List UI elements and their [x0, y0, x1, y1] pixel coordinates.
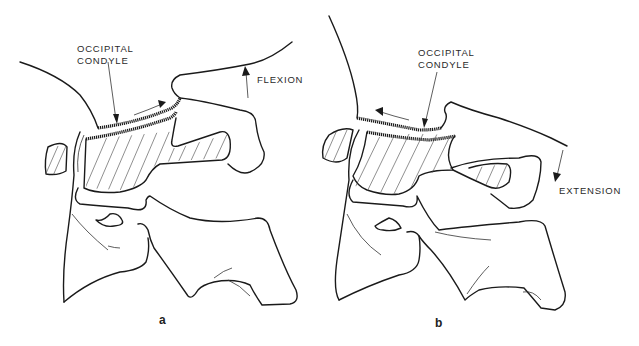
panel-letter-b: b: [435, 316, 442, 330]
condyle-motion-arrow: [134, 104, 162, 115]
skull-base-outline: [172, 42, 292, 98]
flexion-label: FLEXION: [257, 74, 303, 86]
atlas-lateral-mass: [84, 118, 230, 193]
flexion-illustration: [0, 0, 320, 346]
extension-illustration: [319, 0, 639, 346]
extension-label: EXTENSION: [559, 185, 621, 197]
foramen-outline: [96, 214, 123, 227]
atlas-hatching: [80, 128, 230, 200]
flexion-arrow: [246, 72, 248, 98]
label-line-2: CONDYLE: [77, 55, 134, 67]
label-line-1: OCCIPITAL: [418, 47, 475, 59]
panel-letter-a: a: [159, 313, 166, 327]
anterior-arch: [45, 144, 67, 175]
occiput-outline: [20, 62, 98, 128]
label-line-1: OCCIPITAL: [77, 43, 134, 55]
axis-lower-outline: [64, 238, 149, 302]
condyle-cartilage-upper: [357, 118, 441, 130]
panel-b-extension: OCCIPITAL CONDYLE EXTENSION b: [319, 0, 639, 346]
atlas-lateral-mass: [353, 132, 455, 195]
axis-lower-outline: [339, 236, 420, 300]
condyle-motion-arrow: [381, 112, 409, 120]
foramen-outline: [375, 218, 401, 231]
condyle-pointer: [425, 72, 437, 124]
skull-base-outline: [441, 102, 567, 146]
anterior-arch: [323, 129, 353, 162]
atlas-cartilage-lower: [86, 112, 176, 139]
occipital-condyle-label-a: OCCIPITAL CONDYLE: [77, 43, 134, 67]
extension-arrow: [557, 150, 563, 176]
label-line-2: CONDYLE: [418, 59, 475, 71]
panel-a-flexion: OCCIPITAL CONDYLE FLEXION a: [0, 0, 320, 346]
condyle-pointer: [108, 62, 116, 120]
atlas-cartilage-lower: [367, 132, 455, 140]
occipital-condyle-label-b: OCCIPITAL CONDYLE: [418, 47, 475, 71]
occiput-outline: [329, 16, 358, 118]
